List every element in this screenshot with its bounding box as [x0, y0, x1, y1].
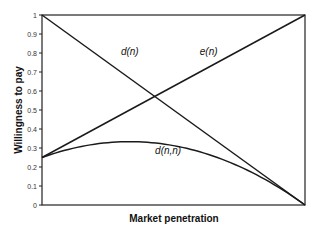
y-tick-label: 0.9	[27, 31, 37, 38]
y-axis-label: Willingness to pay	[13, 66, 24, 154]
y-tick-label: 1	[33, 12, 37, 19]
series-line	[42, 15, 305, 205]
y-tick-label: 0.8	[27, 50, 37, 57]
y-tick-label: 0.4	[27, 126, 37, 133]
y-tick-label: 0.3	[27, 145, 37, 152]
curve-label: d(n,n)	[155, 145, 181, 156]
y-axis-ticks: 00.10.20.30.40.50.60.70.80.91	[27, 12, 42, 209]
y-tick-label: 0.1	[27, 183, 37, 190]
series-group	[42, 15, 305, 205]
x-axis-label: Market penetration	[129, 213, 218, 224]
y-tick-label: 0.7	[27, 69, 37, 76]
y-tick-label: 0	[33, 202, 37, 209]
y-tick-label: 0.6	[27, 88, 37, 95]
y-tick-label: 0.2	[27, 164, 37, 171]
annotations: d(n)e(n)d(n,n)	[121, 46, 218, 156]
line-chart: 00.10.20.30.40.50.60.70.80.91 d(n)e(n)d(…	[0, 0, 322, 233]
y-tick-label: 0.5	[27, 107, 37, 114]
series-line	[42, 15, 305, 158]
curve-label: d(n)	[121, 46, 139, 57]
curve-label: e(n)	[200, 46, 218, 57]
